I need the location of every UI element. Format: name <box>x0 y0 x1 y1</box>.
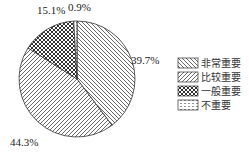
legend-item: 非常重要 <box>178 57 241 69</box>
legend-label: 比较重要 <box>201 71 241 83</box>
percent-label: 39.7% <box>131 54 159 66</box>
legend-item: 比较重要 <box>178 71 241 83</box>
legend-swatch <box>178 72 198 82</box>
legend-swatch <box>178 58 198 68</box>
legend: 非常重要比较重要一般重要不重要 <box>178 57 241 111</box>
percent-label: 15.1% <box>37 4 65 16</box>
legend-label: 一般重要 <box>201 85 241 97</box>
legend-label: 不重要 <box>201 99 231 111</box>
percent-label: 44.3% <box>10 136 38 148</box>
percent-label: 0.9% <box>68 1 91 13</box>
legend-item: 不重要 <box>178 99 231 111</box>
legend-swatch <box>178 86 198 96</box>
legend-item: 一般重要 <box>178 85 241 97</box>
pie-chart: 39.7%44.3%15.1%0.9% 非常重要比较重要一般重要不重要 <box>0 0 249 154</box>
legend-swatch <box>178 100 198 110</box>
pie-slices <box>19 21 135 137</box>
legend-label: 非常重要 <box>201 57 241 69</box>
